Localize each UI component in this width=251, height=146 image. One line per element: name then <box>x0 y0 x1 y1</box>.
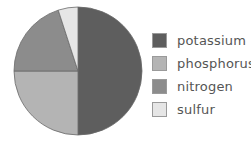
legend-swatch-potassium <box>152 33 167 48</box>
legend-label: phosphorus <box>177 56 251 71</box>
legend-swatch-phosphorus <box>152 56 167 71</box>
pie-slice-potassium <box>78 7 142 135</box>
legend-item-nitrogen: nitrogen <box>152 75 251 98</box>
legend-item-sulfur: sulfur <box>152 98 251 121</box>
legend-item-phosphorus: phosphorus <box>152 52 251 75</box>
legend-swatch-nitrogen <box>152 79 167 94</box>
legend-item-potassium: potassium <box>152 29 251 52</box>
legend-label: potassium <box>177 33 246 48</box>
pie-slice-phosphorus <box>14 71 78 135</box>
legend-label: nitrogen <box>177 79 233 94</box>
legend-label: sulfur <box>177 102 215 117</box>
legend: potassium phosphorus nitrogen sulfur <box>152 29 251 121</box>
legend-swatch-sulfur <box>152 102 167 117</box>
